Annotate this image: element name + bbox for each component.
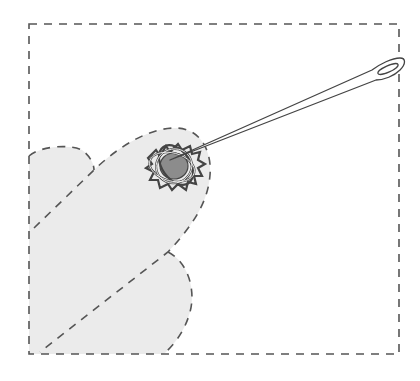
needle-knot-illustration <box>0 0 420 381</box>
needle <box>170 58 405 160</box>
needle-shaft <box>170 58 405 160</box>
